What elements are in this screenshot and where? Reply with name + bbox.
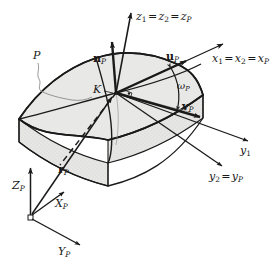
point-k-label: K <box>93 84 101 95</box>
v-vector-label: vP <box>182 101 193 114</box>
diagram-svg <box>0 0 278 266</box>
point-k-marker <box>114 91 118 95</box>
r-vector-label: rP <box>58 164 69 177</box>
surface-patch-solid <box>19 53 203 186</box>
patch-label: P <box>33 50 40 61</box>
u-vector-label: uP <box>166 51 179 64</box>
omega-angle-label: ωP <box>177 81 190 93</box>
axis-label-x: x1=x2=xP <box>212 53 269 66</box>
axis-label-y1: y1 <box>240 145 251 158</box>
normal-vector-label: nP <box>93 53 106 66</box>
figure-canvas: z1=z2=zP nP uP x1=x2=xP K ωP vP y1 y2=yP… <box>0 0 278 266</box>
global-axis-label-x: XP <box>55 198 68 211</box>
global-axis-label-y: YP <box>58 246 70 259</box>
axis-label-y2: y2=yP <box>209 171 243 184</box>
global-axis-label-z: ZP <box>12 180 25 193</box>
axis-label-z: z1=z2=zP <box>136 11 192 24</box>
global-axis-y-line <box>32 219 80 245</box>
